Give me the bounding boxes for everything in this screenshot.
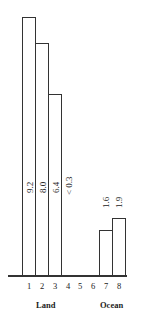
tick-2: 2 [37,281,47,291]
tick-3: 3 [50,281,60,291]
bar-8 [112,218,126,276]
bar-7 [99,230,113,276]
bar-2 [35,43,49,276]
tick-7: 7 [101,281,111,291]
tick-1: 1 [24,281,34,291]
tick-5: 5 [75,281,85,291]
tick-6: 6 [88,281,98,291]
tick-8: 8 [114,281,124,291]
tick-4: 4 [63,281,73,291]
value-label-1: 9.2 [25,182,35,193]
group-label-ocean: Ocean [100,300,123,310]
bar-1 [22,17,36,276]
value-label-7: 1.6 [101,197,111,208]
bar-chart: 9.2 8.0 6.4 < 0.3 1.6 1.9 1 2 3 4 5 6 7 … [0,0,142,324]
value-label-3: 6.4 [51,182,61,193]
group-label-land: Land [36,300,55,310]
x-axis-baseline [8,275,127,277]
value-label-2: 8.0 [38,182,48,193]
value-label-4: < 0.3 [64,176,74,195]
value-label-8: 1.9 [114,197,124,208]
